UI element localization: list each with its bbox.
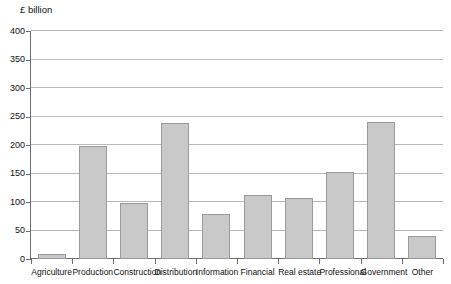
x-axis-tick-label: Production: [72, 267, 113, 278]
bar: [244, 195, 272, 259]
bar: [161, 123, 189, 259]
y-axis-tick-label: 300: [10, 84, 25, 93]
x-axis-tick-mark: [155, 259, 156, 264]
bar-slot: [196, 31, 237, 259]
x-axis-tick-mark: [237, 259, 238, 264]
bar-slot: [155, 31, 196, 259]
bar: [326, 172, 354, 259]
y-axis-tick-label: 150: [10, 169, 25, 178]
x-axis-tick-mark: [361, 259, 362, 264]
x-axis-tick-mark: [443, 259, 444, 264]
bar-slot: [237, 31, 278, 259]
bar-slot: [278, 31, 319, 259]
x-axis-tick-label: Financial: [237, 267, 278, 278]
x-axis-tick-label: Distribution: [155, 267, 196, 278]
y-axis-tick-label: 250: [10, 112, 25, 121]
x-axis-tick-label: Other: [402, 267, 443, 278]
x-axis-tick-mark: [319, 259, 320, 264]
x-axis-tick-mark: [278, 259, 279, 264]
x-axis-tick-label: Real estate: [278, 267, 319, 278]
bar: [202, 214, 230, 259]
bar-slot: [402, 31, 443, 259]
bar: [367, 122, 395, 259]
bar-slot: [361, 31, 402, 259]
x-axis-tick-label: Information: [196, 267, 237, 278]
x-axis-tick-label: Professional: [319, 267, 360, 278]
y-axis-tick-label: 350: [10, 55, 25, 64]
x-axis-tick-mark: [113, 259, 114, 264]
bar-slot: [31, 31, 72, 259]
x-axis: AgricultureProductionConstructionDistrib…: [31, 259, 443, 284]
bar: [79, 146, 107, 259]
bar-slot: [72, 31, 113, 259]
bar: [408, 236, 436, 259]
bar-series: [31, 31, 443, 259]
y-axis-tick-label: 0: [20, 255, 25, 264]
bar-slot: [319, 31, 360, 259]
y-axis-tick-label: 400: [10, 27, 25, 36]
x-axis-tick-label: Government: [361, 267, 402, 278]
bar-chart: £ billion 050100150200250300350400 Agric…: [0, 0, 451, 284]
y-axis-tick-label: 200: [10, 141, 25, 150]
bar-slot: [113, 31, 154, 259]
y-axis-tick-label: 100: [10, 198, 25, 207]
x-axis-tick-mark: [402, 259, 403, 264]
x-axis-tick-mark: [31, 259, 32, 264]
bar: [285, 198, 313, 259]
x-axis-tick-mark: [72, 259, 73, 264]
x-axis-tick-mark: [196, 259, 197, 264]
x-axis-tick-label: Construction: [113, 267, 154, 278]
bar: [120, 203, 148, 259]
y-axis-tick-label: 50: [15, 226, 25, 235]
y-axis-ticks: 050100150200250300350400: [0, 0, 31, 284]
plot-area: [31, 31, 443, 259]
x-axis-tick-label: Agriculture: [31, 267, 72, 278]
